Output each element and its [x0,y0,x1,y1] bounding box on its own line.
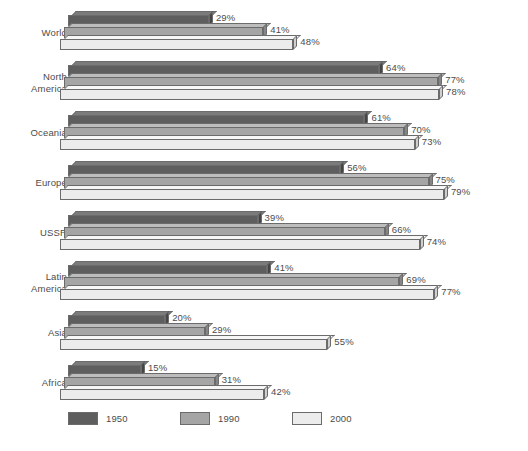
category-label: Africa [0,377,67,389]
bar-1950[interactable] [68,261,267,272]
bar-1950[interactable] [68,361,141,372]
bar-1950[interactable] [68,61,379,72]
bar-top-face [72,311,173,315]
bar-2000[interactable] [60,135,415,146]
bar-1990[interactable] [64,123,404,134]
bar-end-cap [444,185,448,200]
bar-top-face [72,11,217,15]
bar-2000[interactable] [60,35,293,46]
bar-value-label: 79% [451,186,470,197]
bar-value-label: 66% [392,224,411,235]
bar-top-face [64,35,301,39]
bar-top-face [64,335,335,339]
bar-group: USSR39%66%74% [0,211,528,261]
bar-value-label: 15% [148,362,167,373]
bar-value-label: 29% [212,324,231,335]
bar-value-label: 64% [386,62,405,73]
bar-value-label: 77% [441,286,460,297]
bar-end-cap [415,135,419,150]
bar-front-face [60,389,264,400]
legend-label: 1990 [218,413,240,424]
bar-end-cap [327,335,331,350]
bar-1990[interactable] [64,173,429,184]
bar-2000[interactable] [60,85,439,96]
legend-swatch-icon [180,412,210,425]
bar-top-face [72,61,387,65]
category-label: North America [0,71,67,94]
legend-label: 1950 [106,413,128,424]
bar-top-face [68,173,437,177]
bar-group: Asia20%29%55% [0,311,528,361]
bar-front-face [60,89,439,100]
bar-top-face [64,285,442,289]
chart-legend: 195019902000 [0,411,528,435]
bar-end-cap [439,85,443,100]
bar-value-label: 31% [222,374,241,385]
bar-1950[interactable] [68,161,340,172]
bar-top-face [68,323,213,327]
bar-2000[interactable] [60,335,327,346]
bar-top-face [68,273,407,277]
bar-front-face [60,139,415,150]
bar-1950[interactable] [68,111,364,122]
legend-label: 2000 [330,413,352,424]
bar-1990[interactable] [64,373,215,384]
bar-front-face [60,39,293,50]
bar-front-face [60,339,327,350]
bar-value-label: 42% [271,386,290,397]
bar-front-face [60,289,434,300]
bar-1950[interactable] [68,11,209,22]
bar-value-label: 41% [270,24,289,35]
bar-group: Africa15%31%42% [0,361,528,411]
bar-2000[interactable] [60,235,420,246]
bar-1990[interactable] [64,223,385,234]
bar-1990[interactable] [64,323,205,334]
bar-top-face [64,185,452,189]
bar-value-label: 56% [347,162,366,173]
bar-value-label: 74% [427,236,446,247]
bar-front-face [60,189,444,200]
bar-value-label: 55% [334,336,353,347]
bar-group: World29%41%48% [0,11,528,61]
bar-value-label: 69% [406,274,425,285]
category-label: USSR [0,227,67,239]
bar-top-face [72,261,275,265]
category-label: Latin America [0,271,67,294]
bar-top-face [64,135,423,139]
bar-2000[interactable] [60,285,434,296]
bar-1990[interactable] [64,23,263,34]
bar-value-label: 73% [422,136,441,147]
bar-top-face [64,235,428,239]
bar-top-face [68,223,393,227]
bar-value-label: 39% [265,212,284,223]
bar-value-label: 75% [436,174,455,185]
bar-top-face [72,361,149,365]
bar-1950[interactable] [68,311,165,322]
bar-top-face [68,73,446,77]
bar-group: Europe56%75%79% [0,161,528,211]
bar-value-label: 41% [274,262,293,273]
bar-value-label: 29% [216,12,235,23]
bar-1990[interactable] [64,73,438,84]
bar-end-cap [420,235,424,250]
bar-top-face [64,385,272,389]
bar-top-face [68,23,271,27]
bar-2000[interactable] [60,185,444,196]
bar-1990[interactable] [64,273,399,284]
bar-value-label: 77% [445,74,464,85]
bar-1950[interactable] [68,211,258,222]
bar-top-face [68,123,412,127]
category-label: World [0,27,67,39]
bar-2000[interactable] [60,385,264,396]
bar-value-label: 78% [446,86,465,97]
bar-end-cap [434,285,438,300]
category-label: Europe [0,177,67,189]
category-label: Oceania [0,127,67,139]
bar-front-face [60,239,420,250]
bar-end-cap [293,35,297,50]
bar-chart: Africa15%31%42%Asia20%29%55%Latin Americ… [0,0,528,451]
bar-value-label: 61% [371,112,390,123]
bar-group: Oceania61%70%73% [0,111,528,161]
legend-swatch-icon [68,412,98,425]
legend-swatch-icon [292,412,322,425]
